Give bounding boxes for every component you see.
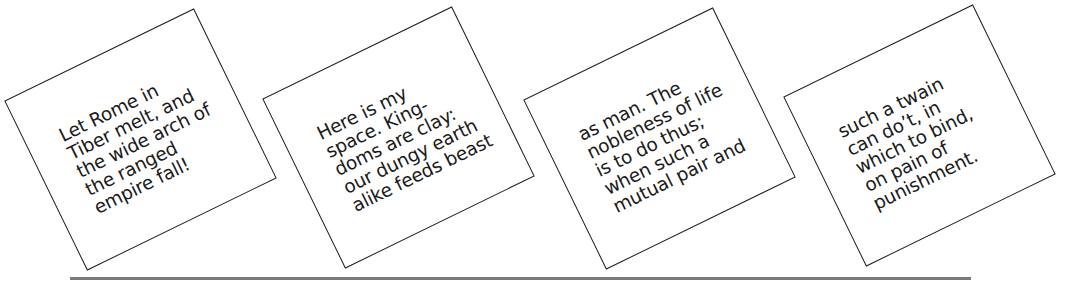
horizontal-rule: [70, 277, 971, 280]
card-text: Let Rome in Tiber melt, and the wide arc…: [56, 62, 235, 218]
card-text: such a twain can do’t, in which to bind,…: [835, 58, 1014, 214]
text-card-4: such a twain can do’t, in which to bind,…: [783, 4, 1055, 266]
text-card-2: Here is my space. King- doms are clay: o…: [262, 6, 534, 268]
card-text: Here is my space. King- doms are clay: o…: [314, 60, 493, 216]
card-text: as man. The nobleness of life is to do t…: [575, 61, 754, 217]
text-card-1: Let Rome in Tiber melt, and the wide arc…: [4, 8, 276, 270]
text-card-3: as man. The nobleness of life is to do t…: [523, 7, 795, 269]
